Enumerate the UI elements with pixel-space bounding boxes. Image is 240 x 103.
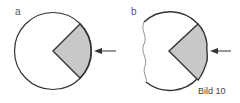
panel-label-a: a xyxy=(15,6,21,17)
panel-b xyxy=(143,12,231,91)
arrow-icon xyxy=(210,48,231,54)
panel-a xyxy=(15,13,117,90)
bottom-arc-b xyxy=(146,78,198,90)
wavy-cut-left-b xyxy=(143,22,147,82)
panel-label-b: b xyxy=(131,6,137,17)
arrow-icon xyxy=(94,48,116,54)
shaded-sector-b xyxy=(169,24,207,80)
figure-caption: Bild 10 xyxy=(198,86,226,96)
top-arc-b xyxy=(144,12,198,24)
